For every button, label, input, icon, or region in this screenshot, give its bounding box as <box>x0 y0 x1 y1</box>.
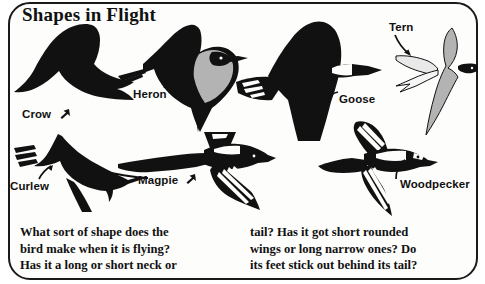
arrow-down-right-icon <box>393 34 419 60</box>
scan-edge-top <box>0 0 485 2</box>
bird-silhouette-woodpecker <box>318 120 454 216</box>
label-tern: Tern <box>389 21 413 33</box>
arrow-up-right-icon <box>392 158 408 180</box>
arrow-left-curve-icon <box>326 90 339 104</box>
arrow-up-right-icon <box>38 164 54 180</box>
label-curlew-text: Curlew <box>10 180 49 192</box>
scan-edge-right <box>478 0 485 284</box>
label-woodpecker-text: Woodpecker <box>400 178 470 190</box>
label-magpie: Magpie <box>138 174 178 186</box>
label-magpie-text: Magpie <box>138 174 178 186</box>
label-curlew: Curlew <box>10 180 49 192</box>
arrow-up-right-icon <box>161 78 173 90</box>
caption-column-right: tail? Has it got short rounded wings or … <box>250 224 478 274</box>
label-woodpecker: Woodpecker <box>400 178 470 190</box>
bird-silhouette-heron <box>116 24 248 136</box>
caption-column-left: What sort of shape does the bird make wh… <box>20 224 235 274</box>
label-tern-text: Tern <box>389 21 413 33</box>
label-crow: Crow <box>22 108 51 120</box>
label-crow-text: Crow <box>22 108 51 120</box>
shapes-in-flight-page: Shapes in Flight Crow Heron <box>0 0 485 284</box>
arrow-up-right-icon <box>58 107 72 121</box>
label-goose: Goose <box>339 93 375 105</box>
label-heron: Heron <box>133 88 167 100</box>
label-goose-text: Goose <box>339 93 375 105</box>
arrow-up-right-icon <box>184 172 198 186</box>
